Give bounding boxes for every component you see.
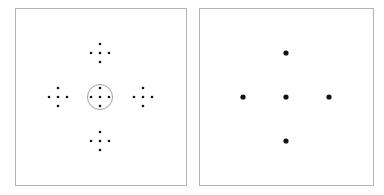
small-dot [133,96,136,99]
left-panel [48,43,154,152]
small-dot [90,52,93,55]
diagram-canvas [0,0,384,195]
small-dot [108,96,111,99]
dot-cluster-center [88,85,113,110]
small-dot [99,43,102,46]
dot-cluster-bottom [90,131,111,152]
small-dot [66,96,69,99]
small-dot [99,96,102,99]
small-dot [90,96,93,99]
small-dot [142,105,145,108]
large-dot-right [326,94,331,99]
small-dot [99,105,102,108]
dot-cluster-right [133,87,154,108]
small-dot [99,131,102,134]
small-dot [142,87,145,90]
small-dot [57,96,60,99]
small-dot [142,96,145,99]
small-dot [57,105,60,108]
small-dot [99,61,102,64]
large-dot-center [283,94,288,99]
small-dot [108,52,111,55]
small-dot [99,52,102,55]
small-dot [48,96,51,99]
large-dot-top [283,50,288,55]
small-dot [99,149,102,152]
small-dot [90,140,93,143]
small-dot [151,96,154,99]
dot-cluster-left [48,87,69,108]
large-dot-left [240,94,245,99]
small-dot [57,87,60,90]
small-dot [108,140,111,143]
dot-cluster-top [90,43,111,64]
small-dot [99,140,102,143]
large-dot-bottom [283,138,288,143]
small-dot [99,87,102,90]
right-panel [240,50,331,143]
